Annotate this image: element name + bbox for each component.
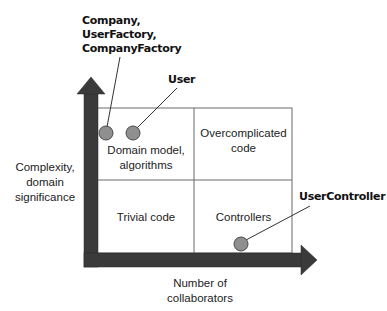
quadrant-label-line: Domain model, bbox=[98, 143, 194, 158]
y-axis-label: Complexity, domain significance bbox=[10, 160, 80, 205]
callout-user: User bbox=[168, 73, 195, 87]
callout-line: UserFactory, bbox=[82, 28, 181, 42]
callout-line: Company, bbox=[82, 14, 181, 28]
axis-label-line: Number of bbox=[160, 276, 240, 291]
quadrant-label-line: code bbox=[195, 141, 292, 156]
quadrant-label-line: Overcomplicated bbox=[195, 126, 292, 141]
leader-line-company bbox=[107, 57, 120, 127]
axis-label-line: collaborators bbox=[160, 291, 240, 306]
x-axis-label: Number of collaborators bbox=[160, 276, 240, 306]
point-company-factories bbox=[99, 126, 113, 140]
point-usercontroller bbox=[234, 237, 248, 251]
callout-company-factories: Company, UserFactory, CompanyFactory bbox=[82, 14, 181, 56]
axis-label-line: domain bbox=[10, 175, 80, 190]
x-axis-arrow bbox=[84, 245, 317, 275]
point-user bbox=[126, 126, 140, 140]
quadrant-label-trivial-code: Trivial code bbox=[98, 210, 194, 225]
quadrant-label-controllers: Controllers bbox=[195, 210, 292, 225]
callout-usercontroller: UserController bbox=[299, 190, 385, 204]
callout-line: User bbox=[168, 73, 195, 87]
quadrant-label-line: algorithms bbox=[98, 158, 194, 173]
axis-label-line: significance bbox=[10, 190, 80, 205]
axis-label-line: Complexity, bbox=[10, 160, 80, 175]
callout-line: CompanyFactory bbox=[82, 42, 181, 56]
callout-line: UserController bbox=[299, 190, 385, 204]
quadrant-label-domain-model: Domain model, algorithms bbox=[98, 143, 194, 173]
quadrant-label-overcomplicated: Overcomplicated code bbox=[195, 126, 292, 156]
